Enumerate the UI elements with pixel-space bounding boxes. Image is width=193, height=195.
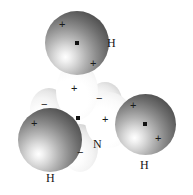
sign-center-right-lobe-plus: + [102,114,108,125]
label-nitrogen-center: N [93,138,102,150]
sign-bottom-lobe-minus: − [77,147,83,158]
nucleus-nitrogen-center [76,116,80,120]
nucleus-hydrogen-top [75,41,79,45]
sign-right-sphere-lower: + [155,133,161,144]
sign-center-right-lobe-minus: − [96,93,102,104]
sign-top-lobe-center: + [71,83,77,94]
molecular-orbital-figure: + + + − + − + − + + H H H N [0,0,193,195]
label-hydrogen-top: H [107,37,116,49]
label-hydrogen-right: H [140,159,149,171]
sign-left-lobe-upper: − [41,99,47,110]
sign-left-sphere: + [31,118,37,129]
sign-top-sphere-lower: + [90,58,96,69]
label-hydrogen-left: H [46,172,55,184]
sign-top-sphere-upper: + [59,19,65,30]
sphere-hydrogen-left [18,108,82,172]
nucleus-hydrogen-right [143,122,147,126]
sign-right-sphere-upper: + [130,100,136,111]
